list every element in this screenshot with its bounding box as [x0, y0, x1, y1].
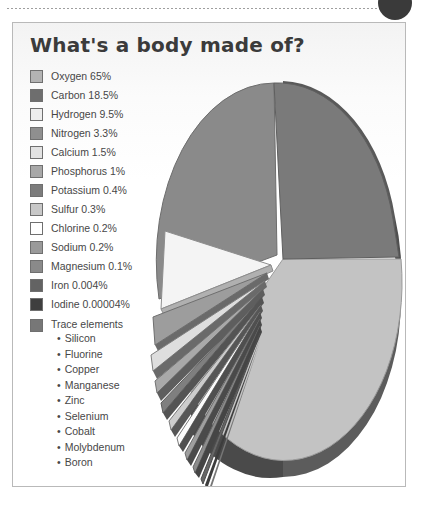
legend-item-phosphorus[interactable]: Phosphorus 1% [30, 162, 180, 181]
legend-swatch-sulfur [30, 203, 43, 216]
trace-element-item: Selenium [51, 409, 125, 425]
legend-item-hydrogen[interactable]: Hydrogen 9.5% [30, 105, 180, 124]
legend-label-phosphorus: Phosphorus 1% [51, 165, 125, 178]
trace-elements-block: Trace elements Silicon Fluorine Copper M… [51, 318, 125, 471]
pie-slice-carbon-top [274, 83, 399, 259]
trace-elements-list: Silicon Fluorine Copper Manganese Zinc S… [51, 331, 125, 471]
legend-item-trace-elements[interactable]: Trace elements Silicon Fluorine Copper M… [30, 318, 180, 471]
legend-item-sulfur[interactable]: Sulfur 0.3% [30, 200, 180, 219]
legend-swatch-iron [30, 279, 43, 292]
dotted-divider [6, 7, 396, 10]
legend-swatch-iodine [30, 298, 43, 311]
legend-swatch-phosphorus [30, 165, 43, 178]
page-title: What's a body made of? [30, 33, 305, 57]
legend-swatch-chlorine [30, 222, 43, 235]
legend-label-iodine: Iodine 0.00004% [51, 298, 130, 311]
legend-swatch-hydrogen [30, 108, 43, 121]
legend-label-iron: Iron 0.004% [51, 279, 108, 292]
legend-label-hydrogen: Hydrogen 9.5% [51, 108, 123, 121]
legend-swatch-carbon [30, 89, 43, 102]
legend-item-potassium[interactable]: Potassium 0.4% [30, 181, 180, 200]
legend-label-sulfur: Sulfur 0.3% [51, 203, 105, 216]
trace-element-item: Copper [51, 362, 125, 378]
trace-element-item: Silicon [51, 331, 125, 347]
corner-dot-decoration [378, 0, 412, 20]
legend-item-sodium[interactable]: Sodium 0.2% [30, 238, 180, 257]
legend-label-magnesium: Magnesium 0.1% [51, 260, 132, 273]
legend-swatch-trace-elements [30, 319, 43, 332]
legend-swatch-potassium [30, 184, 43, 197]
legend-swatch-magnesium [30, 260, 43, 273]
legend-label-carbon: Carbon 18.5% [51, 89, 118, 102]
legend-item-iodine[interactable]: Iodine 0.00004% [30, 295, 180, 314]
trace-element-item: Cobalt [51, 424, 125, 440]
legend-swatch-calcium [30, 146, 43, 159]
trace-element-item: Boron [51, 455, 125, 471]
legend-label-oxygen: Oxygen 65% [51, 70, 111, 83]
legend-item-carbon[interactable]: Carbon 18.5% [30, 86, 180, 105]
legend-item-magnesium[interactable]: Magnesium 0.1% [30, 257, 180, 276]
legend-label-sodium: Sodium 0.2% [51, 241, 113, 254]
trace-element-item: Molybdenum [51, 440, 125, 456]
legend-label-nitrogen: Nitrogen 3.3% [51, 127, 118, 140]
trace-element-item: Fluorine [51, 347, 125, 363]
chart-legend: Oxygen 65% Carbon 18.5% Hydrogen 9.5% Ni… [30, 67, 180, 471]
trace-elements-heading: Trace elements [51, 318, 125, 331]
legend-label-potassium: Potassium 0.4% [51, 184, 127, 197]
legend-label-chlorine: Chlorine 0.2% [51, 222, 117, 235]
legend-item-nitrogen[interactable]: Nitrogen 3.3% [30, 124, 180, 143]
trace-element-item: Zinc [51, 393, 125, 409]
page-root: What's a body made of? [0, 0, 422, 513]
legend-swatch-nitrogen [30, 127, 43, 140]
legend-item-iron[interactable]: Iron 0.004% [30, 276, 180, 295]
legend-item-calcium[interactable]: Calcium 1.5% [30, 143, 180, 162]
chart-panel: What's a body made of? [12, 22, 406, 487]
legend-item-chlorine[interactable]: Chlorine 0.2% [30, 219, 180, 238]
legend-swatch-sodium [30, 241, 43, 254]
trace-element-item: Manganese [51, 378, 125, 394]
legend-swatch-oxygen [30, 70, 43, 83]
legend-item-oxygen[interactable]: Oxygen 65% [30, 67, 180, 86]
legend-label-calcium: Calcium 1.5% [51, 146, 116, 159]
